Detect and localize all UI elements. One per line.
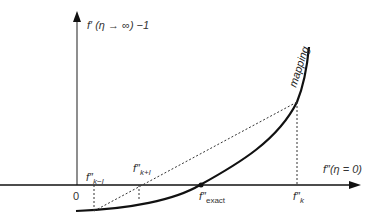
x-axis-arrow-icon [349, 181, 361, 189]
y-axis-arrow-icon [73, 11, 81, 22]
y-axis-label: f′ (η → ∞) −1 [87, 19, 149, 31]
point-label-k-plus-l: f″k+l [133, 162, 150, 174]
x-axis-label: f″(η = 0) [323, 163, 362, 175]
mapping-curve [76, 47, 309, 211]
point-label-exact: f″exact [199, 190, 225, 202]
exact-root-marker [199, 183, 204, 188]
diagram-canvas: mapping [0, 0, 382, 221]
point-label-k-minus-l: f″k−l [86, 171, 103, 183]
secant-line [94, 102, 297, 211]
origin-label: 0 [73, 190, 79, 202]
point-label-k: f″k [293, 190, 304, 202]
